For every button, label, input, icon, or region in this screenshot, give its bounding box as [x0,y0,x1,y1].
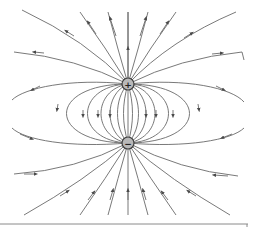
positive-charge: + [122,78,134,90]
positive-sign-label: + [124,80,132,90]
lower-field-lines [14,143,238,215]
dipole-field-diagram: + − [0,0,256,227]
negative-charge: − [122,137,134,149]
upper-field-lines [14,10,244,84]
inner-loop-lines [57,84,199,143]
negative-sign-label: − [124,139,132,149]
